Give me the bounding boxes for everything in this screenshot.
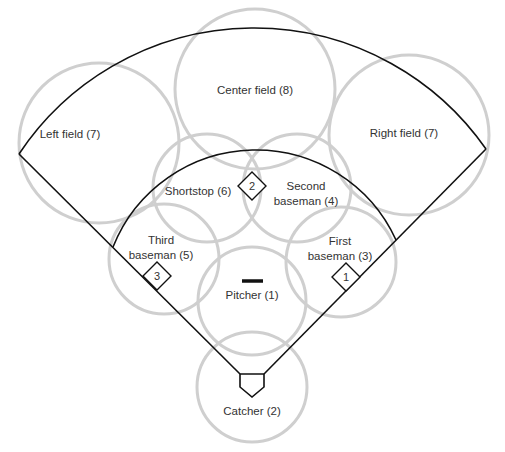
first-baseman-coverage-circle (286, 207, 396, 317)
shortstop-label: Shortstop (6) (165, 185, 232, 197)
second-baseman-label: Secondbaseman (4) (274, 180, 339, 207)
right-field-label: Right field (7) (370, 127, 439, 139)
home-plate (240, 374, 264, 397)
pitcher-coverage-circle (198, 247, 306, 355)
first-base: 1 (332, 263, 360, 291)
base-number: 2 (249, 180, 255, 192)
catcher-label: Catcher (2) (223, 405, 281, 417)
third-base: 3 (143, 262, 171, 290)
base-number: 1 (343, 271, 349, 283)
baseball-field-diagram: 231 Left field (7)Center field (8)Right … (0, 0, 505, 452)
pitcher-label: Pitcher (1) (225, 289, 278, 301)
center-field-label: Center field (8) (217, 84, 293, 96)
position-labels: Left field (7)Center field (8)Right fiel… (40, 84, 439, 417)
left-field-label: Left field (7) (40, 128, 101, 140)
base-number: 3 (154, 270, 160, 282)
